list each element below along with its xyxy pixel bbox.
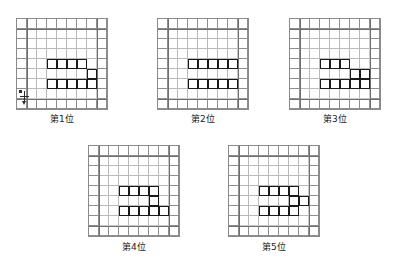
grid-cell	[99, 166, 109, 176]
grid-cell	[67, 99, 77, 109]
grid-cell	[77, 89, 87, 99]
grid-cell	[350, 89, 360, 99]
piece-cell	[228, 59, 238, 69]
grid-cell	[269, 166, 279, 176]
grid-cell	[309, 196, 319, 206]
grid-cell	[249, 166, 259, 176]
grid-cell	[238, 49, 248, 59]
grid-cell	[320, 19, 330, 29]
grid-cell	[47, 19, 57, 29]
grid-cell	[239, 216, 249, 226]
grid-cell	[360, 89, 370, 99]
grid-cell	[330, 29, 340, 39]
grid-cell	[218, 49, 228, 59]
grid-cell	[89, 156, 99, 166]
grid-cell	[269, 146, 279, 156]
grid-cell	[340, 49, 350, 59]
grid-cell	[239, 176, 249, 186]
grid-cell	[109, 186, 119, 196]
grid-cell	[320, 69, 330, 79]
grid-cell	[249, 156, 259, 166]
piece-cell	[269, 206, 279, 216]
grid-cell	[300, 19, 310, 29]
grid-cell	[119, 166, 129, 176]
grid-cell	[320, 29, 330, 39]
piece-cell	[149, 186, 159, 196]
grid-cell	[340, 19, 350, 29]
grid-cell	[218, 39, 228, 49]
grid-cell	[37, 29, 47, 39]
grid-cell	[310, 49, 320, 59]
grid-cell	[300, 69, 310, 79]
grid-cell	[47, 39, 57, 49]
grid-cell	[67, 39, 77, 49]
grid-cell	[279, 146, 289, 156]
grid-cell	[218, 69, 228, 79]
grid-cell	[340, 69, 350, 79]
grid-cell	[330, 69, 340, 79]
piece-cell	[228, 79, 238, 89]
grid-cell	[309, 166, 319, 176]
piece-cell	[279, 186, 289, 196]
grid-cell	[350, 19, 360, 29]
grid-cell	[109, 226, 119, 236]
grid-cell	[168, 99, 178, 109]
piece-cell	[129, 206, 139, 216]
grid-cell	[290, 89, 300, 99]
grid-cell	[290, 79, 300, 89]
grid-cell	[310, 79, 320, 89]
grid-cell	[37, 99, 47, 109]
grid-cell	[289, 166, 299, 176]
piece-cell	[208, 79, 218, 89]
grid-cell	[27, 39, 37, 49]
grid-cell	[228, 39, 238, 49]
grid-cell	[350, 99, 360, 109]
grid-cell	[239, 196, 249, 206]
grid-cell	[99, 186, 109, 196]
grid-cell	[300, 29, 310, 39]
piece-cell	[149, 206, 159, 216]
grid-cell	[198, 99, 208, 109]
grid-cell	[97, 99, 107, 109]
grid-cell	[47, 29, 57, 39]
grid-cell	[87, 89, 97, 99]
figure-1	[16, 18, 108, 110]
grid-cell	[249, 196, 259, 206]
grid-cell	[57, 69, 67, 79]
grid-cell	[269, 216, 279, 226]
grid-cell	[299, 226, 309, 236]
grid-cell	[279, 176, 289, 186]
grid-cell	[360, 19, 370, 29]
grid-cell	[229, 176, 239, 186]
grid-cell	[87, 29, 97, 39]
grid-cell	[188, 49, 198, 59]
grid-cell	[229, 146, 239, 156]
grid-cell	[299, 176, 309, 186]
grid-cell	[238, 59, 248, 69]
grid-cell	[228, 19, 238, 29]
grid-cell	[279, 216, 289, 226]
piece-cell	[360, 69, 370, 79]
grid-cell	[188, 69, 198, 79]
grid-cell	[168, 19, 178, 29]
piece-cell	[139, 186, 149, 196]
grid-cell	[228, 49, 238, 59]
figure-1-caption: 第1位	[16, 112, 108, 125]
grid-cell	[299, 146, 309, 156]
grid-cell	[168, 89, 178, 99]
grid-cell	[159, 186, 169, 196]
grid-cell	[290, 29, 300, 39]
grid-cell	[169, 156, 179, 166]
grid-cell	[289, 216, 299, 226]
grid-cell	[168, 49, 178, 59]
grid-cell	[27, 89, 37, 99]
grid-cell	[27, 19, 37, 29]
grid-cell	[149, 146, 159, 156]
grid-cell	[119, 196, 129, 206]
grid-cell	[218, 19, 228, 29]
grid-cell	[320, 39, 330, 49]
grid-cell	[99, 206, 109, 216]
grid-cell	[310, 59, 320, 69]
grid-cell	[239, 156, 249, 166]
grid-cell	[320, 99, 330, 109]
